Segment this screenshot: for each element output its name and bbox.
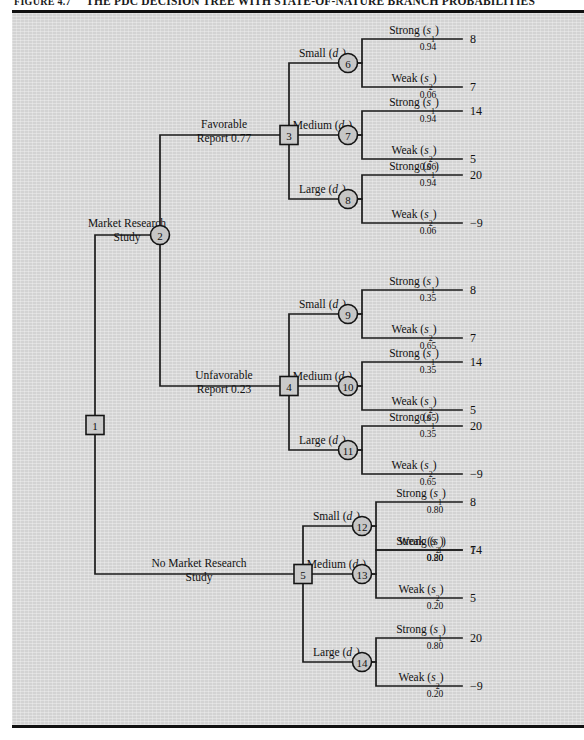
payoff-label: 8 bbox=[470, 283, 476, 297]
probability-label: 0.94 bbox=[420, 178, 437, 188]
payoff-label: 5 bbox=[470, 403, 476, 417]
probability-label: 0.20 bbox=[427, 601, 444, 611]
node-id-label: 6 bbox=[345, 58, 351, 70]
probability-label: 0.80 bbox=[427, 641, 444, 651]
payoff-label: 7 bbox=[470, 80, 476, 94]
payoff-label: −9 bbox=[470, 679, 483, 693]
node-id-label: 13 bbox=[357, 569, 369, 581]
branch-label: Weak (s2) bbox=[392, 459, 437, 478]
node-id-label: 4 bbox=[286, 381, 292, 393]
decision-node-4[interactable]: 4 bbox=[280, 377, 298, 396]
node-id-label: 9 bbox=[345, 309, 351, 321]
node-id-label: 14 bbox=[357, 657, 369, 669]
chance-node-2[interactable]: 2 bbox=[151, 226, 170, 245]
favorable-report-line1: Favorable bbox=[201, 118, 247, 130]
no-market-research-study-line1: No Market Research bbox=[151, 557, 246, 569]
payoff-label: 8 bbox=[470, 32, 476, 46]
payoff-label: 20 bbox=[470, 419, 482, 433]
node-id-label: 11 bbox=[343, 445, 354, 457]
payoff-label: 20 bbox=[470, 168, 482, 182]
chance-node-11[interactable]: 11 bbox=[339, 441, 358, 460]
payoff-label: −9 bbox=[470, 216, 483, 230]
unfavorable-report-line2: Report 0.23 bbox=[197, 383, 252, 396]
payoff-label: 14 bbox=[470, 543, 482, 557]
node-id-label: 1 bbox=[92, 420, 98, 432]
payoff-label: 14 bbox=[470, 104, 482, 118]
unfavorable-report-line1: Unfavorable bbox=[195, 369, 252, 381]
chance-node-6[interactable]: 6 bbox=[339, 54, 358, 73]
node-id-label: 8 bbox=[345, 194, 351, 206]
branch-label: Weak (s2) bbox=[392, 72, 437, 91]
probability-label: 0.06 bbox=[420, 226, 437, 236]
probability-label: 0.65 bbox=[420, 477, 437, 487]
probability-label: 0.20 bbox=[427, 689, 444, 699]
chance-node-7[interactable]: 7 bbox=[339, 126, 358, 145]
branch-label: Strong (s1) bbox=[396, 623, 446, 642]
chance-node-12[interactable]: 12 bbox=[353, 517, 372, 536]
payoff-label: 8 bbox=[470, 495, 476, 509]
chance-node-13[interactable]: 13 bbox=[353, 565, 372, 584]
branch-label: Strong (s1) bbox=[396, 535, 446, 554]
market-research-study-line2: Study bbox=[114, 231, 141, 244]
decision-tree-canvas: Small (d1)Strong (s1)0.948Weak (s2)0.067… bbox=[0, 0, 584, 740]
payoff-label: 20 bbox=[470, 631, 482, 645]
branch-label: Weak (s2) bbox=[399, 671, 444, 690]
probability-label: 0.80 bbox=[427, 505, 444, 515]
branch-label: Weak (s2) bbox=[392, 323, 437, 342]
no-market-research-study-line2: Study bbox=[186, 571, 213, 584]
node-id-label: 7 bbox=[345, 130, 351, 142]
branch-label: Strong (s1) bbox=[389, 275, 439, 294]
node-id-label: 2 bbox=[157, 230, 163, 242]
payoff-label: −9 bbox=[470, 467, 483, 481]
node-id-label: 10 bbox=[343, 381, 355, 393]
chance-node-14[interactable]: 14 bbox=[353, 653, 372, 672]
favorable-report-line2: Report 0.77 bbox=[197, 132, 252, 145]
probability-label: 0.35 bbox=[420, 429, 437, 439]
payoff-label: 5 bbox=[470, 591, 476, 605]
branch-label: Weak (s2) bbox=[392, 208, 437, 227]
chance-node-10[interactable]: 10 bbox=[339, 377, 358, 396]
chance-node-9[interactable]: 9 bbox=[339, 305, 358, 324]
branch-label: Weak (s2) bbox=[399, 583, 444, 602]
node-id-label: 5 bbox=[300, 569, 306, 581]
branch-label: Strong (s1) bbox=[396, 487, 446, 506]
probability-label: 0.35 bbox=[420, 365, 437, 375]
figure-root: FIGURE 4.7 THE PDC DECISION TREE WITH ST… bbox=[0, 0, 584, 740]
payoff-label: 14 bbox=[470, 355, 482, 369]
branch-label: Strong (s1) bbox=[389, 24, 439, 43]
node-id-label: 3 bbox=[286, 130, 292, 142]
chance-node-8[interactable]: 8 bbox=[339, 190, 358, 209]
payoff-label: 7 bbox=[470, 331, 476, 345]
probability-label: 0.80 bbox=[427, 553, 444, 563]
tree-nodes: 1234567891011121314 bbox=[86, 54, 372, 672]
decision-node-5[interactable]: 5 bbox=[294, 565, 312, 584]
decision-node-3[interactable]: 3 bbox=[280, 126, 298, 145]
probability-label: 0.35 bbox=[420, 293, 437, 303]
node-id-label: 12 bbox=[357, 521, 368, 533]
decision-node-1[interactable]: 1 bbox=[86, 416, 104, 435]
probability-label: 0.94 bbox=[420, 114, 437, 124]
probability-label: 0.94 bbox=[420, 42, 437, 52]
payoff-label: 5 bbox=[470, 152, 476, 166]
